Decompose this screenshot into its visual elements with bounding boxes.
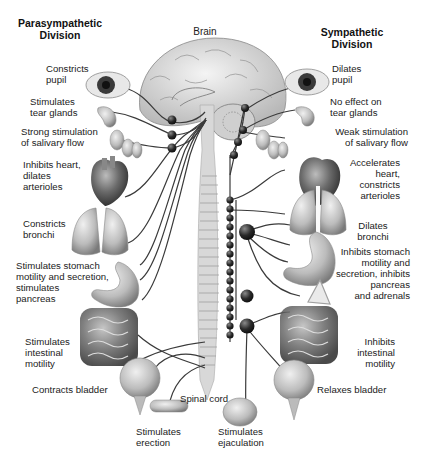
parasympathetic-division-header: Parasympathetic Division [14, 17, 106, 41]
brain-label: Brain [180, 26, 230, 37]
para-effect-intestines: Stimulates intestinal motility [25, 336, 70, 369]
salivary-glands-right [256, 130, 288, 159]
para-effect-tear-glands: Stimulates tear glands [30, 96, 77, 118]
para-effect-stomach: Stimulates stomach motility and secretio… [16, 260, 109, 304]
para-effect-eye: Constricts pupil [46, 63, 89, 85]
eye-right [285, 69, 329, 95]
spinal-cord-illustration [198, 105, 219, 400]
para-effect-genitals: Stimulates erection [136, 426, 181, 448]
symp-effect-bladder: Relaxes bladder [317, 384, 386, 395]
tear-gland-right [296, 107, 315, 126]
intestines-right [280, 306, 338, 364]
symp-effect-tear-glands: No effect on tear glands [330, 96, 382, 118]
symp-effect-salivary: Weak stimulation of salivary flow [320, 126, 408, 148]
symp-effect-lungs: Dilates bronchi [350, 220, 396, 242]
para-effect-bladder: Contracts bladder [32, 384, 108, 395]
para-effect-salivary: Strong stimulation of salivary flow [21, 126, 98, 148]
symp-effect-stomach: Inhibits stomach motility and secretion,… [314, 246, 410, 301]
eye-left [86, 72, 130, 98]
heart-left [91, 156, 128, 206]
para-effect-lungs: Constricts bronchi [23, 218, 66, 240]
parasympathetic-ganglia [168, 116, 177, 153]
sympathetic-division-header: Sympathetic Division [312, 26, 392, 50]
symp-effect-heart: Accelerates heart, constricts arterioles [330, 157, 400, 201]
salivary-glands-left [110, 130, 142, 158]
lungs-left [72, 208, 128, 255]
symp-effect-intestines: Inhibits intestinal motility [340, 336, 395, 369]
tear-gland-left [98, 107, 116, 127]
symp-effect-eye: Dilates pupil [332, 63, 361, 85]
symp-effect-genitals: Stimulates ejaculation [218, 426, 264, 448]
para-effect-heart: Inhibits heart, dilates arterioles [23, 159, 81, 192]
bladder-right [274, 360, 314, 420]
intestines-left [80, 308, 138, 366]
spinal-cord-label: Spinal cord [180, 393, 228, 404]
testis-illustration [223, 398, 257, 426]
